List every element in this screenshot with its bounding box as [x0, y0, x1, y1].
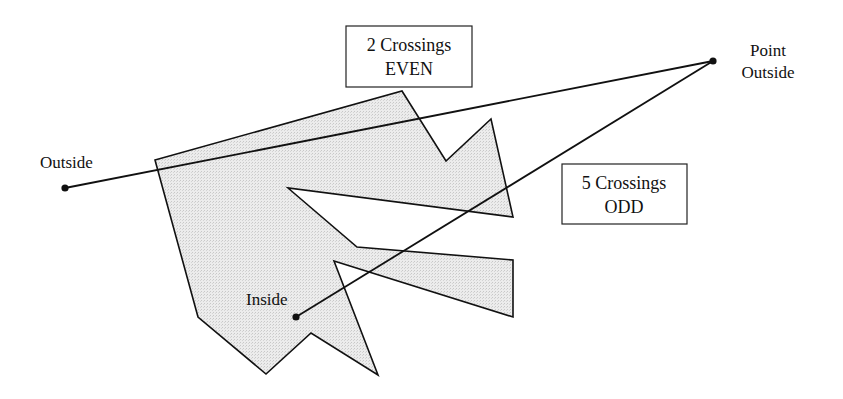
point-outside-marker — [709, 57, 716, 64]
outside-point-marker — [61, 184, 68, 191]
point-outside-label-line1: Point — [750, 41, 786, 60]
outside-label: Outside — [40, 153, 93, 172]
point-in-polygon-diagram: Outside Point Outside Inside 2 Crossings… — [0, 0, 843, 399]
even-box-line1: 2 Crossings — [367, 35, 452, 55]
odd-box-line2: ODD — [605, 197, 644, 217]
odd-box-line1: 5 Crossings — [582, 173, 667, 193]
inside-label: Inside — [246, 290, 288, 309]
odd-crossings-box: 5 Crossings ODD — [562, 164, 687, 224]
concave-polygon — [155, 91, 513, 375]
even-crossings-box: 2 Crossings EVEN — [346, 26, 472, 87]
inside-point-marker — [292, 313, 299, 320]
even-box-line2: EVEN — [385, 59, 433, 79]
point-outside-label-line2: Outside — [742, 63, 795, 82]
